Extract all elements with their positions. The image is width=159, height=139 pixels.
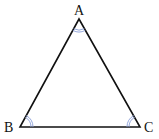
- triangle-abc: [20, 19, 140, 127]
- triangle-diagram: A B C: [0, 0, 159, 139]
- angle-mark-a: [73, 29, 85, 32]
- vertex-label-a: A: [74, 3, 85, 18]
- vertex-label-b: B: [4, 120, 13, 135]
- angle-mark-b: [25, 116, 33, 127]
- angle-mark-c: [127, 116, 135, 127]
- vertex-label-c: C: [144, 120, 153, 135]
